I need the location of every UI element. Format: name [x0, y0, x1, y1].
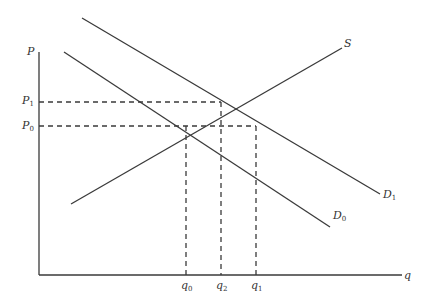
y-axis-label: P: [26, 45, 35, 58]
q2-label: q2: [216, 279, 228, 293]
q0-label: q0: [181, 279, 193, 293]
d1-label: D1: [382, 188, 396, 202]
p1-label: P1: [21, 94, 34, 108]
demand-curve-d1: [82, 18, 380, 194]
supply-demand-diagram: S D1 D0 P q P1 P0 q0 q2 q1: [0, 0, 424, 301]
x-axis-label: q: [404, 269, 411, 282]
p0-label: P0: [21, 119, 34, 133]
supply-label: S: [344, 37, 352, 50]
d0-label: D0: [332, 209, 346, 223]
q1-label: q1: [251, 279, 263, 293]
